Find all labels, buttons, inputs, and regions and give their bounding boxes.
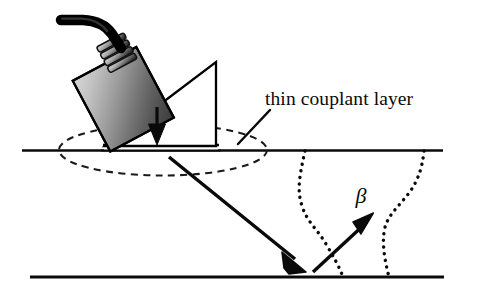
transducer-cable bbox=[61, 19, 121, 48]
couplant-layer-label: thin couplant layer bbox=[265, 88, 414, 109]
diagram-canvas: thin couplant layer β bbox=[0, 0, 484, 298]
crack-indication-right bbox=[383, 151, 424, 277]
reflected-beam-arrow bbox=[313, 213, 374, 272]
crack-indication-left bbox=[299, 151, 343, 277]
beam-angle-symbol: β bbox=[355, 183, 367, 208]
label-leader-line bbox=[238, 110, 270, 144]
ultrasonic-inspection-diagram: thin couplant layer β bbox=[0, 0, 484, 298]
incident-beam-arrow bbox=[169, 157, 306, 274]
